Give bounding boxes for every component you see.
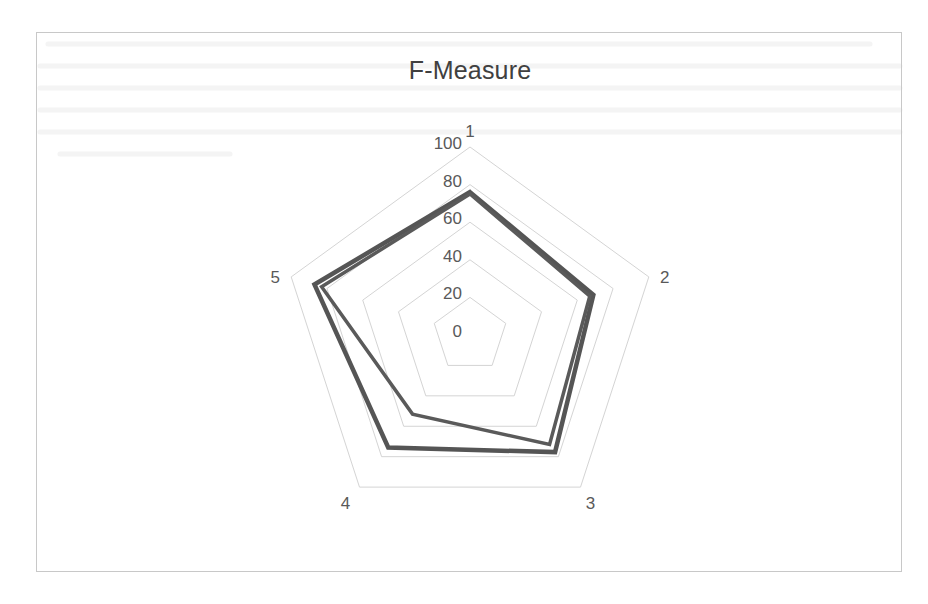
- radar-chart: 020406080100 12345: [0, 0, 928, 604]
- tick-label: 20: [443, 284, 462, 303]
- tick-label: 100: [434, 134, 462, 153]
- category-label-3: 3: [586, 494, 595, 513]
- tick-label: 80: [443, 172, 462, 191]
- category-label-4: 4: [341, 494, 350, 513]
- series-line-2: [322, 194, 590, 445]
- grid-ring-40: [398, 260, 541, 396]
- tick-label: 40: [443, 247, 462, 266]
- tick-label: 0: [453, 322, 462, 341]
- grid-ring-20: [434, 297, 506, 365]
- category-label-2: 2: [660, 268, 669, 287]
- radial-axis-tick-labels: 020406080100: [434, 134, 462, 341]
- category-label-5: 5: [270, 268, 279, 287]
- tick-label: 60: [443, 209, 462, 228]
- category-label-1: 1: [465, 122, 474, 141]
